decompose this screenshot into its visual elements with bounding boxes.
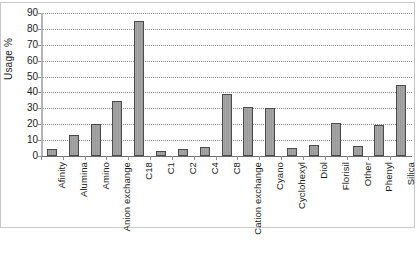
y-axis-tick-labels: 0102030405060708090 (18, 8, 38, 160)
bar[interactable] (309, 145, 319, 156)
x-axis-label-slot: Silica (390, 160, 412, 252)
bar-slot (281, 13, 303, 156)
bar-slot (237, 13, 259, 156)
x-axis-label-slot: Anion exchange (106, 160, 128, 252)
bar[interactable] (287, 148, 297, 156)
bar-slot (390, 13, 412, 156)
x-axis-label-slot: C8 (216, 160, 238, 252)
bar[interactable] (69, 135, 79, 156)
bar-slot (216, 13, 238, 156)
bar-slot (347, 13, 369, 156)
bar[interactable] (265, 108, 275, 156)
bar[interactable] (134, 21, 144, 156)
x-axis-category-labels: AfinityAluminaAminoAnion exchangeC18C1C2… (41, 160, 412, 252)
x-axis-label-slot: Cyclohexyl (281, 160, 303, 252)
x-axis-label-slot: C4 (194, 160, 216, 252)
bar-slot (172, 13, 194, 156)
y-axis-title: Usage % (3, 29, 17, 89)
bar-chart: Usage % 0102030405060708090 AfinityAlumi… (0, 0, 417, 255)
bar-slot (303, 13, 325, 156)
bar-slot (63, 13, 85, 156)
bars-container (41, 13, 412, 156)
bar[interactable] (243, 107, 253, 156)
bar-slot (150, 13, 172, 156)
x-axis-label-slot: Diol (303, 160, 325, 252)
bar-slot (259, 13, 281, 156)
x-axis-label-slot: C1 (150, 160, 172, 252)
x-axis-label-slot: C2 (172, 160, 194, 252)
x-axis-label-slot: Cation exchange (237, 160, 259, 252)
bar[interactable] (112, 101, 122, 156)
x-axis-label-slot: Amino (85, 160, 107, 252)
bar-slot (194, 13, 216, 156)
x-axis-label-slot: Other (347, 160, 369, 252)
bar-slot (106, 13, 128, 156)
y-axis-tick-label: 30 (18, 103, 38, 113)
y-axis-tick-label: 10 (18, 135, 38, 145)
x-axis-label-slot: Cyano (259, 160, 281, 252)
x-axis-label-slot: C18 (128, 160, 150, 252)
bar[interactable] (396, 85, 406, 156)
bar-slot (128, 13, 150, 156)
x-axis-label-slot: Florisil (325, 160, 347, 252)
y-axis-tick-label: 60 (18, 56, 38, 66)
y-axis-tick-label: 0 (18, 151, 38, 161)
y-axis-tick-label: 40 (18, 87, 38, 97)
bar[interactable] (178, 149, 188, 156)
bar[interactable] (374, 125, 384, 156)
bar[interactable] (91, 124, 101, 156)
y-axis-tick-label: 90 (18, 8, 38, 18)
bar[interactable] (353, 146, 363, 156)
y-axis-tick-label: 50 (18, 72, 38, 82)
bar-slot (41, 13, 63, 156)
plot-area (41, 13, 412, 156)
y-axis-tick-label: 20 (18, 119, 38, 129)
bar-slot (325, 13, 347, 156)
bar-slot (368, 13, 390, 156)
x-axis-category-label: Silica (405, 162, 416, 185)
bar-slot (85, 13, 107, 156)
y-axis-tick-label: 70 (18, 40, 38, 50)
bar[interactable] (47, 149, 57, 156)
x-axis-label-slot: Afinity (41, 160, 63, 252)
bar[interactable] (200, 147, 210, 156)
x-axis-label-slot: Alumina (63, 160, 85, 252)
y-axis-tick-label: 80 (18, 24, 38, 34)
bar[interactable] (331, 123, 341, 156)
x-axis-label-slot: Phenyl (368, 160, 390, 252)
bar[interactable] (222, 94, 232, 156)
